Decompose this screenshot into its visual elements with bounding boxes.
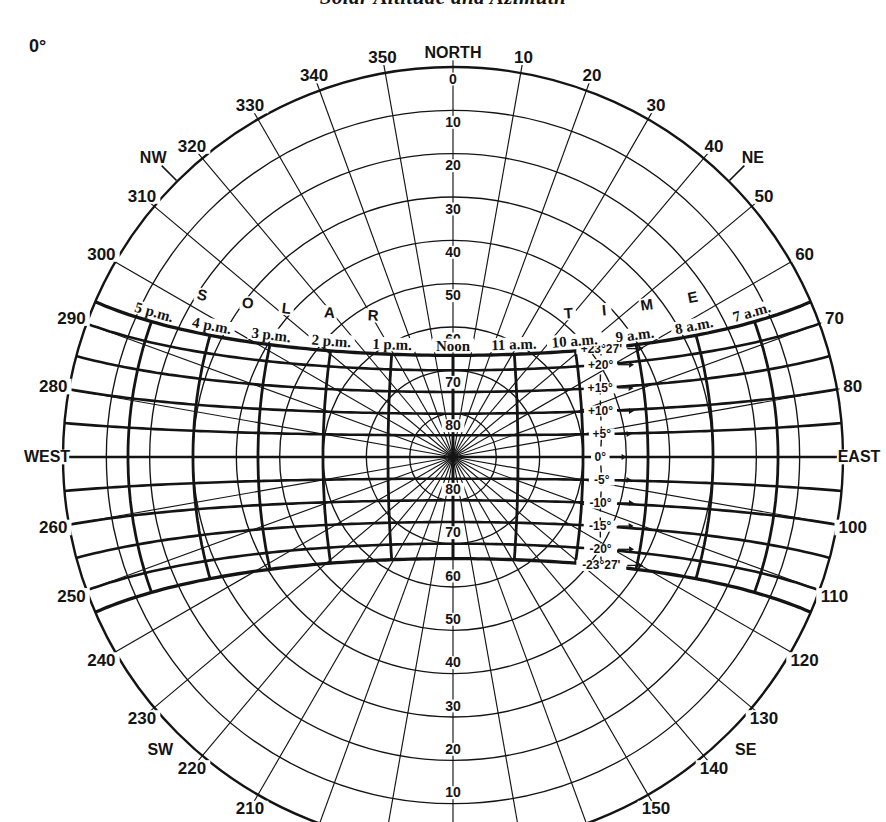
hour-label: 1 p.m. xyxy=(369,336,416,354)
azimuth-label: 50 xyxy=(751,187,777,206)
altitude-tick-north: 20 xyxy=(442,157,465,173)
svg-text:350: 350 xyxy=(368,48,396,67)
declination-label: 0° xyxy=(591,450,626,464)
svg-text:+10°: +10° xyxy=(588,404,613,418)
svg-text:40: 40 xyxy=(445,654,461,670)
svg-text:A: A xyxy=(324,303,336,321)
svg-text:140: 140 xyxy=(700,759,728,778)
svg-text:WEST: WEST xyxy=(24,448,70,465)
azimuth-label: 70 xyxy=(821,309,847,328)
svg-text:320: 320 xyxy=(178,137,206,156)
altitude-tick-south: 20 xyxy=(442,741,465,757)
svg-text:80: 80 xyxy=(843,377,862,396)
solar-time-letter: A xyxy=(321,303,337,321)
azimuth-label: SW xyxy=(147,741,174,758)
declination-label: +20° xyxy=(584,358,634,372)
svg-text:10: 10 xyxy=(445,114,461,130)
altitude-tick-north: 40 xyxy=(442,244,465,260)
altitude-tick-south: 40 xyxy=(442,654,465,670)
azimuth-label: 300 xyxy=(83,245,120,264)
azimuth-label: 20 xyxy=(579,66,605,85)
svg-text:11 a.m.: 11 a.m. xyxy=(491,336,537,354)
svg-text:70: 70 xyxy=(825,309,844,328)
svg-text:-5°: -5° xyxy=(594,473,610,487)
svg-text:50: 50 xyxy=(445,287,461,303)
svg-text:-15°: -15° xyxy=(589,519,611,533)
declination-label: -20° xyxy=(584,542,634,556)
svg-text:NORTH: NORTH xyxy=(425,44,482,61)
solar-time-letter: L xyxy=(278,299,295,318)
declination-label: -15° xyxy=(584,519,634,533)
svg-text:60: 60 xyxy=(445,568,461,584)
svg-text:110: 110 xyxy=(821,587,848,606)
altitude-tick-south: 10 xyxy=(442,784,465,800)
altitude-tick-north: 10 xyxy=(442,114,465,130)
svg-text:NW: NW xyxy=(140,149,168,166)
azimuth-label: 250 xyxy=(53,587,90,606)
svg-text:50: 50 xyxy=(755,187,774,206)
svg-text:-23°27': -23°27' xyxy=(582,558,620,572)
svg-text:330: 330 xyxy=(236,96,264,115)
svg-text:100: 100 xyxy=(839,518,867,537)
azimuth-label: 80 xyxy=(840,377,866,396)
svg-text:50: 50 xyxy=(445,611,461,627)
svg-text:SW: SW xyxy=(147,741,174,758)
svg-text:SE: SE xyxy=(735,741,757,758)
azimuth-label: 220 xyxy=(174,759,211,778)
solar-time-letter: S xyxy=(193,285,211,305)
svg-text:220: 220 xyxy=(178,759,206,778)
svg-text:230: 230 xyxy=(128,709,156,728)
azimuth-label: 110 xyxy=(816,587,853,606)
azimuth-label: 310 xyxy=(124,187,161,206)
svg-text:0: 0 xyxy=(449,71,457,87)
svg-text:-10°: -10° xyxy=(589,496,611,510)
svg-text:120: 120 xyxy=(790,651,818,670)
altitude-tick-south: 80 xyxy=(442,481,465,497)
svg-text:40: 40 xyxy=(445,244,461,260)
svg-text:240: 240 xyxy=(87,651,115,670)
svg-text:T: T xyxy=(563,304,573,322)
altitude-tick-south: 70 xyxy=(442,524,465,540)
azimuth-label: NORTH xyxy=(425,44,482,61)
solar-time-letter: E xyxy=(684,287,702,307)
svg-text:280: 280 xyxy=(39,377,67,396)
svg-text:80: 80 xyxy=(445,417,461,433)
azimuth-label: 230 xyxy=(124,709,161,728)
svg-text:150: 150 xyxy=(642,799,670,818)
svg-text:210: 210 xyxy=(236,799,264,818)
azimuth-label: 260 xyxy=(35,518,72,537)
svg-text:30: 30 xyxy=(445,201,461,217)
svg-text:10: 10 xyxy=(445,784,461,800)
azimuth-label: 280 xyxy=(35,377,72,396)
svg-text:340: 340 xyxy=(300,66,328,85)
altitude-tick-north: 70 xyxy=(442,374,465,390)
svg-text:70: 70 xyxy=(445,374,461,390)
azimuth-label: 150 xyxy=(638,799,675,818)
solar-time-letter: M xyxy=(638,295,655,314)
azimuth-label: NE xyxy=(740,149,765,166)
svg-text:EAST: EAST xyxy=(838,448,881,465)
svg-text:260: 260 xyxy=(39,518,67,537)
svg-text:60: 60 xyxy=(795,245,814,264)
svg-text:+20°: +20° xyxy=(588,358,613,372)
svg-text:M: M xyxy=(639,295,654,314)
solar-time-letter: R xyxy=(365,306,381,324)
azimuth-label: 240 xyxy=(83,651,120,670)
altitude-tick-north: 0 xyxy=(446,71,460,87)
altitude-tick-south: 50 xyxy=(442,611,465,627)
altitude-tick-north: 30 xyxy=(442,201,465,217)
svg-text:+15°: +15° xyxy=(588,381,613,395)
svg-text:0°: 0° xyxy=(595,450,607,464)
azimuth-label: 60 xyxy=(791,245,817,264)
azimuth-label: 130 xyxy=(746,709,783,728)
altitude-tick-south: 60 xyxy=(442,568,465,584)
svg-text:10: 10 xyxy=(514,48,533,67)
svg-text:+5°: +5° xyxy=(592,427,611,441)
svg-text:30: 30 xyxy=(445,698,461,714)
svg-text:20: 20 xyxy=(582,66,601,85)
altitude-tick-north: 80 xyxy=(442,417,465,433)
azimuth-label: SE xyxy=(733,741,758,758)
azimuth-label: 120 xyxy=(786,651,823,670)
svg-text:1 p.m.: 1 p.m. xyxy=(372,336,412,353)
azimuth-label: 350 xyxy=(364,48,401,67)
